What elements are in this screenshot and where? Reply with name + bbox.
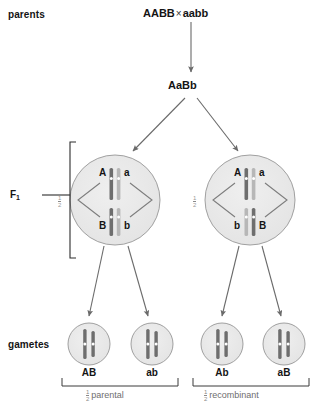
f1-left-allele-bottom-right: b: [124, 220, 130, 231]
gametes-row-label: gametes: [8, 339, 49, 350]
gamete-label-2: ab: [132, 367, 172, 378]
f1-right-allele-bottom-left: b: [234, 220, 240, 231]
cross-operator-symbol: ×: [175, 8, 183, 19]
parents-row-label: parents: [8, 9, 45, 20]
parental-group-text: parental: [91, 390, 124, 400]
parental-bracket: [62, 378, 178, 386]
recombinant-fraction-denominator: 2: [204, 395, 207, 402]
recombinant-group-text: recombinant: [209, 390, 259, 400]
gamete-label-1: AB: [69, 367, 109, 378]
parental-fraction: 1 2: [86, 389, 89, 402]
f1-right-fraction-denominator: 2: [193, 201, 196, 208]
gamete-cell-1-graphic: [68, 323, 110, 365]
parental-fraction-denominator: 2: [86, 395, 89, 402]
f1-left-allele-bottom-left: B: [99, 220, 106, 231]
arrow-left-cell-to-gamete-ab: [89, 246, 104, 316]
recombinant-fraction: 1 2: [204, 389, 207, 402]
parental-fraction-numerator: 1: [86, 389, 89, 395]
f1-right-allele-top-left: A: [234, 167, 241, 178]
recombinant-fraction-numerator: 1: [204, 389, 207, 395]
f1-right-fraction-numerator: 1: [193, 195, 196, 201]
gamete-cell-4-graphic: [263, 323, 305, 365]
f1-left-fraction-numerator: 1: [58, 195, 61, 201]
gamete-cell-3-graphic: [201, 323, 243, 365]
gamete-label-3: Ab: [202, 367, 242, 378]
f1-left-allele-top-left: A: [99, 167, 106, 178]
arrow-right-cell-to-gamete-aB: [262, 246, 281, 316]
f1-left-allele-top-right: a: [124, 167, 130, 178]
arrow-f1-split-left: [133, 98, 185, 151]
parental-cross: AABB×aabb: [143, 7, 208, 19]
f1-cell-left-graphic: [70, 155, 160, 245]
f1-cell-right-graphic: [205, 155, 295, 245]
f1-offspring-genotype: AaBb: [168, 79, 197, 91]
f1-left-fraction-denominator: 2: [58, 201, 61, 208]
parent-two-genotype: aabb: [183, 7, 209, 19]
arrow-right-cell-to-gamete-Ab: [222, 246, 239, 316]
recombinant-group-caption: 1 2 recombinant: [204, 389, 259, 402]
gamete-cell-2-graphic: [131, 323, 173, 365]
f1-left-fraction: 1 2: [58, 195, 61, 208]
f1-right-allele-top-right: a: [259, 167, 265, 178]
f1-row-label: F1: [10, 189, 20, 200]
parent-one-genotype: AABB: [143, 7, 175, 19]
f1-right-fraction: 1 2: [193, 195, 196, 208]
parental-group-caption: 1 2 parental: [86, 389, 124, 402]
f1-subscript: 1: [16, 194, 20, 201]
gamete-label-4: aB: [264, 367, 304, 378]
arrow-f1-split-right: [197, 98, 238, 151]
f1-right-allele-bottom-right: B: [259, 220, 266, 231]
genetics-linkage-diagram: parents AABB×aabb AaBb F1 1 2 1 2 A a B …: [0, 0, 315, 406]
recombinant-bracket: [193, 378, 309, 386]
arrow-left-cell-to-gamete-ab2: [128, 246, 148, 316]
